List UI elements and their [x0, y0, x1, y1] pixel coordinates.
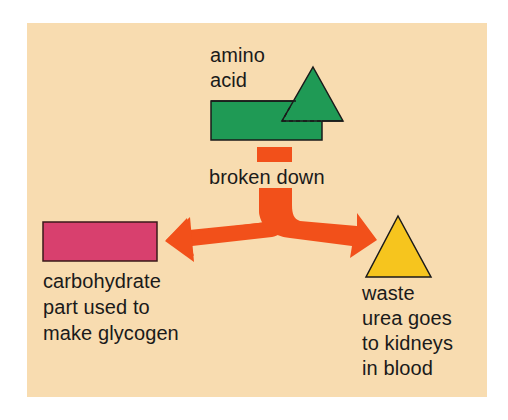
waste-triangle	[366, 216, 431, 277]
forked-arrow	[165, 188, 377, 262]
carbohydrate-rectangle	[43, 222, 157, 261]
amino-acid-triangle	[282, 67, 343, 121]
waste-label: waste urea goes to kidneys in blood	[362, 281, 453, 381]
arrow-left-head	[165, 217, 194, 262]
arrow-bar-top	[257, 147, 292, 162]
carbohydrate-label: carbohydrate part used to make glycogen	[43, 268, 179, 346]
broken-down-label: broken down	[209, 165, 325, 190]
amino-acid-label: amino acid	[210, 43, 265, 93]
arrow-right-branch	[259, 188, 377, 258]
